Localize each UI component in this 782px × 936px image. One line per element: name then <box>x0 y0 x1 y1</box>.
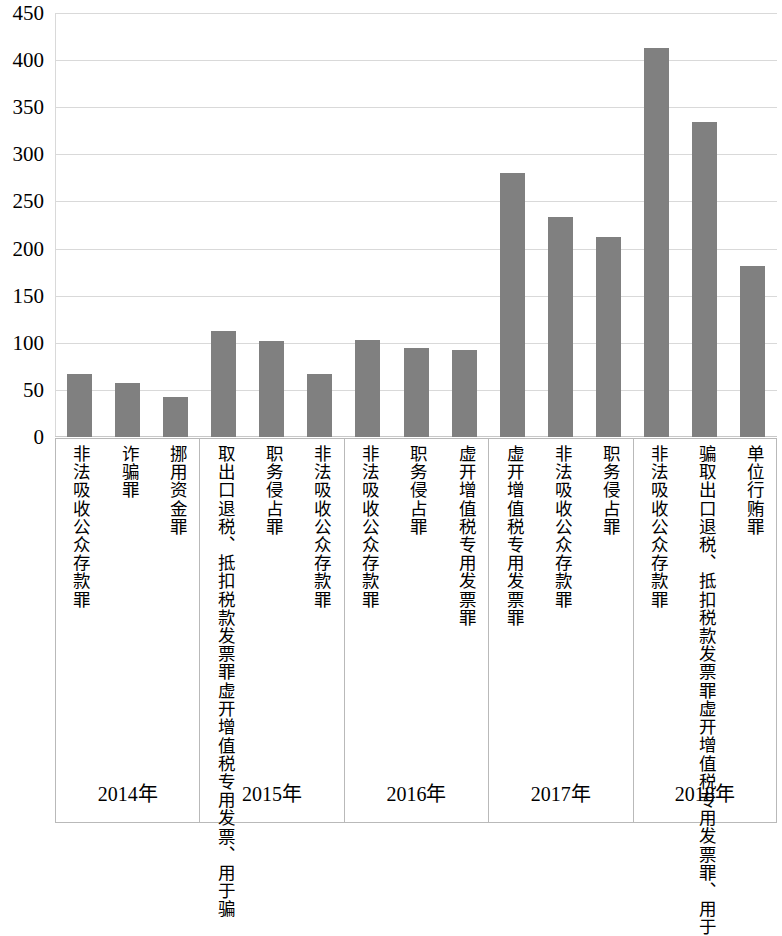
bar <box>548 217 573 437</box>
bar <box>163 397 188 438</box>
category-label-group: 虚开增值税专用发票、用于骗取出口退税、抵扣税款发票罪职务侵占罪非法吸收公众存款罪 <box>200 439 343 762</box>
year-axis-label: 2016年 <box>345 762 488 822</box>
y-axis-tick-label: 200 <box>13 238 45 259</box>
bar <box>452 350 477 437</box>
plot-area <box>55 13 777 437</box>
bar <box>644 48 669 437</box>
bar <box>500 173 525 437</box>
category-label: 非法吸收公众存款罪 <box>360 445 378 609</box>
bar <box>355 340 380 437</box>
y-axis-tick-label: 450 <box>13 3 45 24</box>
category-label: 虚开增值税专用发票罪、用于骗取出口退税、抵扣税款发票罪 <box>697 445 715 936</box>
year-group-2016年: 非法吸收公众存款罪职务侵占罪虚开增值税专用发票罪2016年 <box>344 438 488 823</box>
y-axis-tick-label: 300 <box>13 144 45 165</box>
category-label: 单位行贿罪 <box>745 445 763 536</box>
year-group-2014年: 非法吸收公众存款罪诈骗罪挪用资金罪2014年 <box>55 438 199 823</box>
category-label-line: 取出口退税、抵扣税款发票罪 <box>216 445 234 682</box>
category-label-line: 骗取出口退税、抵扣税款发票罪 <box>697 445 715 700</box>
bar <box>740 266 765 437</box>
y-axis-tick-label: 50 <box>23 379 44 400</box>
bar <box>307 374 332 437</box>
category-label-group: 虚开增值税专用发票罪非法吸收公众存款罪职务侵占罪 <box>489 439 632 762</box>
category-label: 职务侵占罪 <box>601 445 619 536</box>
bar <box>259 341 284 437</box>
year-axis-label: 2014年 <box>56 762 199 822</box>
y-axis-tick-label: 250 <box>13 191 45 212</box>
category-label-line: 虚开增值税专用发票罪、用于 <box>697 700 715 936</box>
bar <box>692 122 717 437</box>
y-axis-tick-label: 0 <box>34 427 45 448</box>
year-group-2015年: 虚开增值税专用发票、用于骗取出口退税、抵扣税款发票罪职务侵占罪非法吸收公众存款罪… <box>199 438 343 823</box>
category-label: 非法吸收公众存款罪 <box>71 445 89 609</box>
year-axis-label: 2017年 <box>489 762 632 822</box>
category-label-group: 非法吸收公众存款罪虚开增值税专用发票罪、用于骗取出口退税、抵扣税款发票罪单位行贿… <box>634 439 776 762</box>
category-label: 虚开增值税专用发票、用于骗取出口退税、抵扣税款发票罪 <box>216 445 234 918</box>
bar <box>211 331 236 437</box>
y-axis-tick-label: 350 <box>13 97 45 118</box>
bar-series <box>55 13 777 437</box>
y-axis-tick-label: 100 <box>13 332 45 353</box>
category-label: 非法吸收公众存款罪 <box>312 445 330 609</box>
bar <box>67 374 92 437</box>
category-label: 挪用资金罪 <box>167 445 185 536</box>
y-axis-tick-label: 150 <box>13 285 45 306</box>
bar <box>596 237 621 437</box>
category-label: 非法吸收公众存款罪 <box>552 445 570 609</box>
year-group-2017年: 虚开增值税专用发票罪非法吸收公众存款罪职务侵占罪2017年 <box>488 438 632 823</box>
category-label-line: 虚开增值税专用发票、用于骗 <box>216 682 234 919</box>
category-label-group: 非法吸收公众存款罪诈骗罪挪用资金罪 <box>56 439 199 762</box>
category-axis: 非法吸收公众存款罪诈骗罪挪用资金罪2014年虚开增值税专用发票、用于骗取出口退税… <box>55 438 777 823</box>
category-label: 诈骗罪 <box>119 445 137 500</box>
bar <box>404 348 429 438</box>
category-label-group: 非法吸收公众存款罪职务侵占罪虚开增值税专用发票罪 <box>345 439 488 762</box>
y-axis-tick-label: 400 <box>13 50 45 71</box>
category-label: 非法吸收公众存款罪 <box>649 445 667 609</box>
category-label: 虚开增值税专用发票罪 <box>504 445 522 627</box>
category-label: 职务侵占罪 <box>408 445 426 536</box>
category-label: 虚开增值税专用发票罪 <box>456 445 474 627</box>
category-label: 职务侵占罪 <box>264 445 282 536</box>
year-group-2018年: 非法吸收公众存款罪虚开增值税专用发票罪、用于骗取出口退税、抵扣税款发票罪单位行贿… <box>633 438 777 823</box>
y-axis: 450400350300250200150100500 <box>0 0 52 440</box>
bar <box>115 383 140 437</box>
